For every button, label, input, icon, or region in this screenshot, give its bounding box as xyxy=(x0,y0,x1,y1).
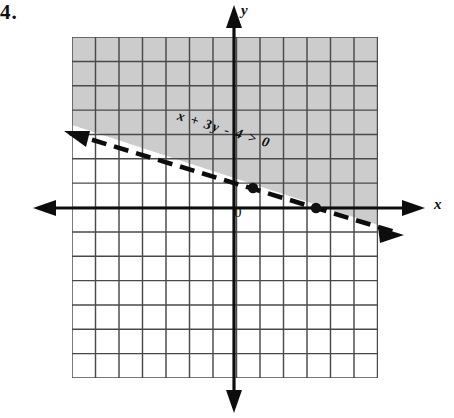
inequality-graph-figure: 4. xyxy=(0,0,454,418)
origin-label: 0 xyxy=(234,204,242,221)
y-axis-label: y xyxy=(241,2,248,19)
point-marker xyxy=(248,183,258,193)
graph-svg xyxy=(0,0,454,418)
x-axis-label: x xyxy=(434,196,442,213)
point-marker xyxy=(311,203,321,213)
